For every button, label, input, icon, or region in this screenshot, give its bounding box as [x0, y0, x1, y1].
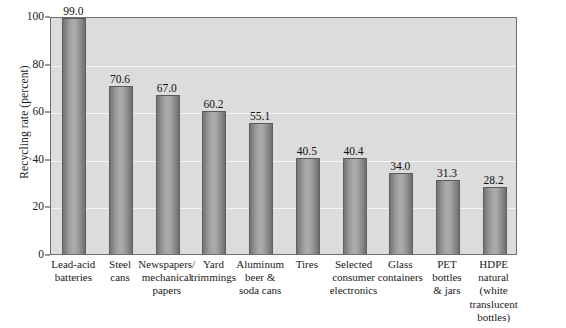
x-axis-category-label-line: mechanical	[138, 271, 195, 284]
bar-value-label: 55.1	[250, 111, 270, 123]
x-axis-category-label-line: natural	[470, 271, 518, 284]
bar-value-label: 99.0	[63, 6, 83, 18]
y-axis-tick-label: 60	[0, 106, 44, 118]
x-axis-category-label-line: cans	[109, 271, 131, 284]
x-axis-category-label-line: Glass	[378, 258, 423, 271]
bar-value-labels: 99.070.667.060.255.140.540.434.031.328.2	[50, 0, 517, 258]
x-axis-category-label-line: containers	[378, 271, 423, 284]
x-axis-category-label: HDPEnatural(whitetranslucentbottles)	[470, 258, 518, 324]
bar-value-label: 28.2	[484, 175, 504, 187]
bar-value-label: 60.2	[203, 99, 223, 111]
x-axis-category-label-line: beer &	[236, 271, 284, 284]
bar-value-label: 70.6	[110, 74, 130, 86]
bar-value-label: 34.0	[390, 161, 410, 173]
x-axis-category-label-line: Aluminum	[236, 258, 284, 271]
y-axis-tick-label: 40	[0, 154, 44, 166]
x-axis-category-label: Steelcans	[109, 258, 131, 284]
x-axis-category-label-line: bottles)	[470, 311, 518, 324]
x-axis-category-label: Glasscontainers	[378, 258, 423, 284]
x-axis-category-label: Selectedconsumerelectronics	[330, 258, 378, 298]
x-axis-category-label-line: soda cans	[236, 284, 284, 297]
y-axis-tick-label: 20	[0, 202, 44, 214]
x-axis-category-label-line: Steel	[109, 258, 131, 271]
y-axis-tick-label: 80	[0, 59, 44, 71]
x-axis-category-label: Aluminumbeer &soda cans	[236, 258, 284, 298]
x-axis-category-label-line: HDPE	[470, 258, 518, 271]
x-axis-category-label-line: electronics	[330, 284, 378, 297]
x-axis-category-label: Newspapers/mechanicalpapers	[138, 258, 195, 298]
x-axis-category-label-line: (white	[470, 284, 518, 297]
x-axis-category-label-line: bottles	[432, 271, 461, 284]
y-axis-tick-label: 0	[0, 249, 44, 261]
bar-value-label: 67.0	[157, 83, 177, 95]
bar-value-label: 31.3	[437, 168, 457, 180]
bar-value-label: 40.4	[343, 146, 363, 158]
x-axis-category-label: Lead-acidbatteries	[51, 258, 95, 284]
x-axis-category-label-line: Lead-acid	[51, 258, 95, 271]
x-axis-category-label-line: Tires	[296, 258, 318, 271]
x-axis-category-label-line: consumer	[330, 271, 378, 284]
recycling-rate-bar-chart: Recycling rate (percent) 020406080100 99…	[0, 0, 566, 328]
y-axis-tick-label: 100	[0, 11, 44, 23]
x-axis-category-label: PETbottles& jars	[432, 258, 461, 298]
x-axis-category-label-line: Yard	[191, 258, 236, 271]
x-axis-category-label: Yardtrimmings	[191, 258, 236, 284]
x-axis-category-label-line: trimmings	[191, 271, 236, 284]
x-axis-category-label-line: batteries	[51, 271, 95, 284]
bar-value-label: 40.5	[297, 146, 317, 158]
x-axis-category-label: Tires	[296, 258, 318, 271]
x-axis-category-label-line: translucent	[470, 298, 518, 311]
y-axis-tick-labels: 020406080100	[0, 0, 44, 328]
x-axis-category-label-line: PET	[432, 258, 461, 271]
x-axis-category-label-line: & jars	[432, 284, 461, 297]
x-axis-category-label-line: Newspapers/	[138, 258, 195, 271]
x-axis-category-label-line: Selected	[330, 258, 378, 271]
x-axis-category-labels: Lead-acidbatteriesSteelcansNewspapers/me…	[50, 258, 517, 328]
x-axis-category-label-line: papers	[138, 284, 195, 297]
